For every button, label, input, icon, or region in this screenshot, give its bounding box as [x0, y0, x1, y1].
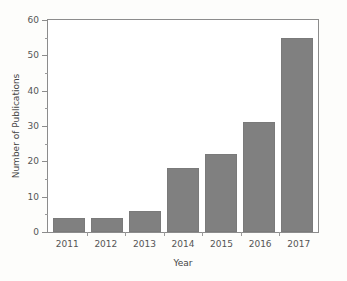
- x-tick-label-2015: 2015: [210, 239, 233, 249]
- bar-2012[interactable]: [91, 218, 123, 232]
- y-tick-label-30: 30: [28, 121, 39, 131]
- y-tick-label-10: 10: [28, 192, 39, 202]
- y-minor-tick-15: [45, 179, 48, 180]
- plot-area: 0102030405060 20112012201320142015201620…: [47, 19, 319, 233]
- bar-slot: [50, 20, 88, 232]
- y-tick-label-50: 50: [28, 50, 39, 60]
- bar-2014[interactable]: [167, 168, 199, 232]
- x-tick-boundary-1: [87, 232, 88, 236]
- y-tick-10: [42, 197, 48, 198]
- y-minor-tick-25: [45, 144, 48, 145]
- y-tick-label-0: 0: [33, 227, 39, 237]
- y-tick-label-20: 20: [28, 156, 39, 166]
- bar-chart-figure: Number of Publications 0102030405060 201…: [0, 0, 347, 281]
- bar-2013[interactable]: [129, 211, 161, 232]
- y-tick-40: [42, 91, 48, 92]
- y-axis-title-label: Number of Publications: [11, 74, 21, 179]
- y-axis-title: Number of Publications: [9, 19, 23, 233]
- bar-slot: [88, 20, 126, 232]
- x-tick-boundary-4: [202, 232, 203, 236]
- y-minor-tick-55: [45, 38, 48, 39]
- bar-slot: [164, 20, 202, 232]
- x-tick-label-2017: 2017: [287, 239, 310, 249]
- y-tick-20: [42, 161, 48, 162]
- bar-2015[interactable]: [205, 154, 237, 232]
- x-tick-boundary-5: [241, 232, 242, 236]
- y-tick-0: [42, 232, 48, 233]
- y-tick-label-60: 60: [28, 15, 39, 25]
- x-tick-boundary-2: [125, 232, 126, 236]
- y-tick-50: [42, 55, 48, 56]
- y-tick-60: [42, 20, 48, 21]
- x-tick-label-2014: 2014: [172, 239, 195, 249]
- bar-2011[interactable]: [53, 218, 85, 232]
- bar-series: [48, 20, 318, 232]
- y-tick-30: [42, 126, 48, 127]
- y-minor-tick-35: [45, 108, 48, 109]
- x-tick-label-2013: 2013: [133, 239, 156, 249]
- bar-slot: [240, 20, 278, 232]
- y-minor-tick-5: [45, 214, 48, 215]
- bar-slot: [278, 20, 316, 232]
- x-tick-boundary-6: [279, 232, 280, 236]
- bar-2017[interactable]: [281, 38, 313, 232]
- bar-2016[interactable]: [243, 122, 275, 232]
- x-tick-label-2011: 2011: [56, 239, 79, 249]
- x-tick-label-2012: 2012: [94, 239, 117, 249]
- y-minor-tick-45: [45, 73, 48, 74]
- x-axis-title: Year: [47, 258, 319, 268]
- x-tick-boundary-3: [164, 232, 165, 236]
- bar-slot: [126, 20, 164, 232]
- y-tick-label-40: 40: [28, 86, 39, 96]
- x-tick-label-2016: 2016: [249, 239, 272, 249]
- bar-slot: [202, 20, 240, 232]
